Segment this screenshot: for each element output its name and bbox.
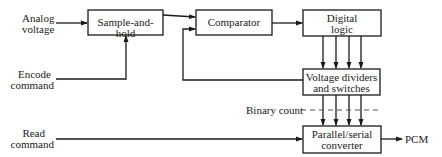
read-command-line2: command xyxy=(10,139,54,150)
encode-command-label: Encode command xyxy=(10,69,54,91)
analog-voltage-line2: voltage xyxy=(22,24,54,35)
sample-and-hold-text: Sample-and-hold xyxy=(88,17,163,39)
encode-command-line2: command xyxy=(10,80,54,91)
comparator-text: Comparator xyxy=(196,17,272,28)
feedback-arrow xyxy=(183,29,303,80)
digital-logic-label: Digital logic xyxy=(303,13,381,35)
parallel-serial-label: Parallel/serial converter xyxy=(303,129,381,151)
binary-count-label: Binary count xyxy=(246,105,303,116)
encode-command-arrow xyxy=(56,36,126,79)
sh-to-comparator-arrow xyxy=(163,15,195,17)
comparator-label: Comparator xyxy=(196,17,272,28)
parallel-serial-line2: converter xyxy=(303,140,381,151)
analog-voltage-label: Analog voltage xyxy=(22,13,54,35)
voltage-dividers-line2: and switches xyxy=(303,83,380,94)
sample-and-hold-label: Sample-and-hold xyxy=(88,17,163,39)
pcm-output-label: PCM xyxy=(405,134,428,145)
voltage-dividers-label: Voltage dividers and switches xyxy=(303,72,380,94)
read-command-label: Read command xyxy=(10,128,54,150)
digital-logic-line2: logic xyxy=(303,24,381,35)
